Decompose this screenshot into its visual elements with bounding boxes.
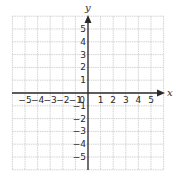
x-axis-label: x: [167, 87, 173, 98]
y-tick-label: −4: [73, 139, 87, 149]
y-tick-label: 4: [80, 37, 86, 47]
axes: x y: [12, 2, 173, 170]
x-tick-label: −5: [18, 95, 31, 105]
x-tick-label: −2: [56, 95, 69, 105]
x-tick-label: 5: [148, 95, 154, 105]
x-tick-label: −4: [31, 95, 45, 105]
y-tick-label: −3: [73, 126, 86, 136]
x-tick-label: 2: [110, 95, 116, 105]
y-tick-label: −1: [73, 101, 86, 111]
x-tick-label: 3: [123, 95, 129, 105]
coordinate-plane: x y −5−4−3−2−1012345 54321−1−2−3−4−5: [0, 0, 177, 179]
y-tick-label: −2: [73, 114, 86, 124]
x-tick-labels: −5−4−3−2−1012345: [18, 95, 154, 105]
y-tick-label: −5: [73, 152, 86, 162]
x-tick-label: 4: [136, 95, 142, 105]
x-tick-label: −3: [44, 95, 57, 105]
y-tick-label: 2: [80, 62, 86, 72]
y-tick-label: 3: [80, 50, 86, 60]
y-axis-arrow-icon: [85, 15, 92, 23]
y-tick-label: 5: [80, 24, 86, 34]
x-tick-label: 1: [98, 95, 104, 105]
y-axis-label: y: [84, 2, 91, 13]
y-tick-label: 1: [80, 75, 86, 85]
